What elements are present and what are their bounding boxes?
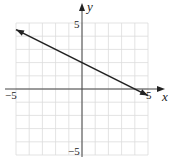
x-tick-label-min: −5 — [5, 89, 17, 101]
y-axis-arrow-icon — [79, 3, 85, 11]
line-arrow-left-icon — [16, 30, 24, 36]
x-tick-label-max: 5 — [146, 89, 152, 101]
coordinate-plane: x y −5 5 5 −5 — [0, 0, 170, 161]
y-axis-label: y — [85, 0, 93, 14]
x-axis-label: x — [161, 89, 168, 104]
y-tick-label-min: −5 — [68, 145, 80, 157]
y-tick-label-max: 5 — [74, 18, 80, 30]
